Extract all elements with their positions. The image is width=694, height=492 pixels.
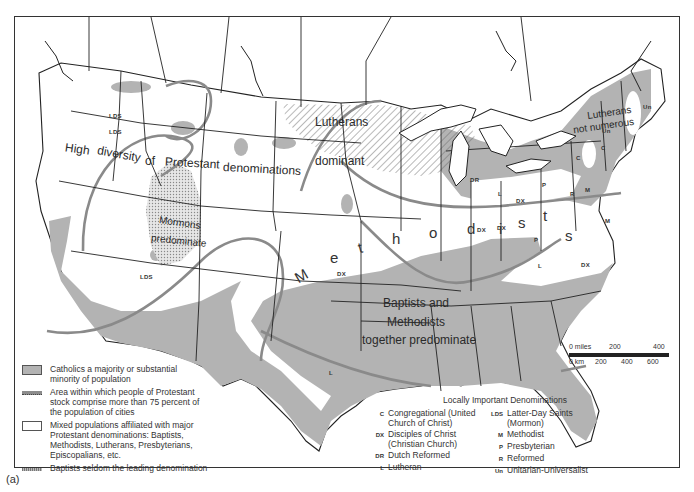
- scale-label: 0 miles: [569, 343, 591, 350]
- denom-abbr: R: [485, 453, 503, 464]
- marker-dx: DX: [477, 227, 486, 233]
- marker-dx: DX: [581, 262, 590, 268]
- legend-label: Baptists seldom the leading denomination: [50, 463, 207, 473]
- denom-item: DRDutch Reformed: [370, 450, 485, 461]
- label-protestant: Protestant: [165, 155, 220, 172]
- denom-abbr: DX: [370, 429, 384, 449]
- denom-label: Lutheran: [388, 462, 422, 473]
- figure-caption: (a): [6, 473, 19, 485]
- catholic-swatch-icon: [22, 365, 42, 375]
- label-methodists-o: o: [429, 224, 437, 241]
- label-methodists-t2: t: [543, 207, 547, 224]
- local-denominations-title: Locally Important Denominations: [370, 395, 630, 405]
- label-of: of: [145, 154, 155, 168]
- scale-bar: 0 miles 200 400 0 km 200 400 600: [569, 343, 669, 367]
- legend: Catholics a majority or substantial mino…: [22, 364, 352, 476]
- marker-l: L: [498, 191, 502, 197]
- scale-label: 400: [653, 343, 665, 350]
- denom-label: Dutch Reformed: [388, 450, 450, 461]
- marker-un: Un: [602, 128, 611, 134]
- marker-lds: LDS: [109, 113, 122, 119]
- denom-item: RReformed: [485, 453, 630, 464]
- marker-dx: DX: [516, 198, 525, 204]
- legend-label: Area within which people of Protestant s…: [50, 387, 200, 417]
- denom-label: Unitarian-Universalist: [507, 465, 588, 476]
- denom-label: Methodist: [507, 429, 544, 440]
- denom-abbr: Un: [485, 465, 503, 476]
- scale-label: 0 km: [569, 358, 584, 365]
- legend-item-baptist: Baptists seldom the leading denomination: [22, 463, 352, 473]
- denom-abbr: P: [485, 441, 503, 452]
- scale-label: 600: [647, 358, 659, 365]
- scale-label: 400: [621, 358, 633, 365]
- marker-m: M: [585, 187, 590, 193]
- marker-m: M: [605, 218, 610, 224]
- denom-label: Latter-Day Saints (Mormon): [507, 408, 577, 428]
- denom-abbr: DR: [370, 450, 384, 461]
- denom-item: DXDisciples of Christ (Christian Church): [370, 429, 485, 449]
- denom-label: Congregational (United Church of Christ): [388, 408, 485, 428]
- marker-lds: LDS: [109, 129, 122, 135]
- denom-label: Presbyterian: [507, 441, 555, 452]
- marker-lds: LDS: [140, 274, 153, 280]
- scale-miles-labels: 0 miles 200 400: [569, 343, 669, 352]
- denom-abbr: LDS: [485, 408, 503, 428]
- label-methodists-h: h: [392, 230, 400, 247]
- scale-line: [569, 353, 669, 357]
- label-methodists-d: d: [467, 220, 475, 237]
- legend-item-mixed: Mixed populations affiliated with major …: [22, 420, 352, 460]
- label-baptists-and: Baptists and: [383, 296, 449, 310]
- marker-l: L: [538, 263, 542, 269]
- denom-item: UnUnitarian-Universalist: [485, 465, 630, 476]
- denom-abbr: C: [370, 408, 384, 428]
- denom-item: LDSLatter-Day Saints (Mormon): [485, 408, 630, 428]
- marker-dx: DX: [497, 225, 506, 231]
- marker-p: P: [534, 237, 538, 243]
- denom-item: LLutheran: [370, 462, 485, 473]
- denom-label: Reformed: [507, 453, 544, 464]
- label-dominant: dominant: [315, 154, 364, 168]
- label-methodists-s2: s: [565, 227, 573, 244]
- baptist-line-icon: [22, 468, 42, 471]
- marker-dr: DR: [470, 177, 479, 183]
- marker-p: P: [542, 182, 546, 188]
- denom-abbr: L: [370, 462, 384, 473]
- denom-label: Disciples of Christ (Christian Church): [388, 429, 485, 449]
- marker-c: C: [601, 145, 606, 151]
- marker-r: R: [570, 191, 575, 197]
- label-methodists: Methodists: [387, 315, 445, 329]
- denom-item: MMethodist: [485, 429, 630, 440]
- marker-c: C: [576, 155, 581, 161]
- legend-item-protestant-area: Area within which people of Protestant s…: [22, 387, 352, 417]
- marker-dx: DX: [337, 271, 346, 277]
- local-left-column: CCongregational (United Church of Christ…: [370, 408, 485, 477]
- mixed-swatch-icon: [22, 421, 42, 431]
- scale-label: 200: [595, 358, 607, 365]
- denom-abbr: M: [485, 429, 503, 440]
- label-methodists-e: e: [330, 249, 338, 266]
- scale-km-labels: 0 km 200 400 600: [569, 358, 669, 367]
- area-line-icon: [22, 391, 42, 395]
- label-together-predominate: together predominate: [362, 333, 476, 347]
- legend-item-catholic: Catholics a majority or substantial mino…: [22, 364, 352, 384]
- label-methodists-s: s: [518, 214, 526, 231]
- local-right-column: LDSLatter-Day Saints (Mormon) MMethodist…: [485, 408, 630, 477]
- local-denominations-key: Locally Important Denominations CCongreg…: [370, 395, 630, 477]
- denom-item: CCongregational (United Church of Christ…: [370, 408, 485, 428]
- scale-label: 200: [609, 343, 621, 350]
- legend-label: Mixed populations affiliated with major …: [50, 420, 228, 460]
- legend-label: Catholics a majority or substantial mino…: [50, 364, 200, 384]
- denom-item: PPresbyterian: [485, 441, 630, 452]
- label-lutherans: Lutherans: [315, 115, 368, 129]
- marker-un: Un: [643, 104, 652, 110]
